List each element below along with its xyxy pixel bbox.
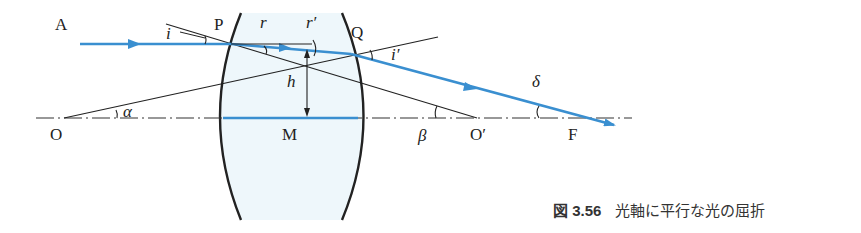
angle-i-arc: [205, 36, 206, 44]
label-angle-beta: β: [417, 126, 427, 145]
label-angle-r-prime: r′: [306, 13, 317, 32]
label-point-f: F: [568, 125, 577, 144]
label-angle-i: i: [166, 24, 171, 43]
label-angle-i-prime: i′: [391, 45, 400, 64]
label-point-o: O: [50, 125, 62, 144]
incident-ray-arrow-icon: [128, 39, 141, 49]
label-point-p: P: [214, 15, 223, 34]
figure-caption: 図 3.56光軸に平行な光の屈折: [553, 199, 765, 220]
label-height-h: h: [287, 72, 296, 91]
label-angle-delta: δ: [532, 72, 541, 91]
label-angle-r: r: [260, 13, 267, 32]
label-angle-alpha: α: [123, 102, 133, 121]
angle-delta-arc: [537, 106, 539, 118]
figure-caption-text: 光軸に平行な光の屈折: [615, 202, 765, 220]
emergent-ray: [351, 54, 614, 125]
figure-number: 図 3.56: [553, 202, 601, 219]
label-point-a: A: [55, 15, 68, 34]
label-point-o-prime: O′: [470, 125, 486, 144]
angle-beta-arc: [435, 106, 437, 118]
label-point-m: M: [282, 125, 297, 144]
angle-alpha-arc: [116, 110, 117, 118]
label-point-q: Q: [351, 23, 363, 42]
